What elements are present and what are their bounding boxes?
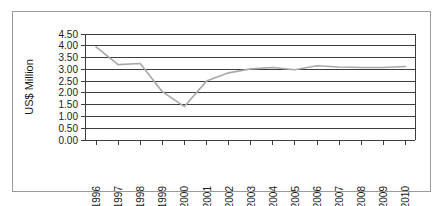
x-tick-label: 2000 [179, 186, 190, 206]
y-tick-label: 1.50 [59, 99, 79, 110]
y-tick-label: 3.00 [59, 64, 79, 75]
y-tick-label: 2.50 [59, 76, 79, 87]
y-tick-label: 0.50 [59, 123, 79, 134]
y-tick-label: 0.00 [59, 135, 79, 146]
y-tick-marks [81, 34, 85, 140]
y-tick-label: 4.50 [59, 29, 79, 40]
y-axis-title: US$ Million [23, 59, 35, 115]
gridlines-y [85, 34, 415, 140]
line-chart: 4.50 4.00 3.50 3.00 2.50 2.00 1.50 1.00 … [0, 0, 444, 206]
data-series-line [96, 47, 405, 107]
chart-figure: 4.50 4.00 3.50 3.00 2.50 2.00 1.50 1.00 … [0, 0, 444, 206]
x-tick-label: 1996 [91, 186, 102, 206]
plot-area-border [85, 34, 415, 140]
x-tick-label: 2002 [224, 186, 235, 206]
x-tick-label: 1999 [157, 186, 168, 206]
y-tick-label: 1.00 [59, 111, 79, 122]
x-tick-label: 2003 [246, 186, 257, 206]
x-tick-label: 2008 [356, 186, 367, 206]
x-tick-label: 1998 [135, 186, 146, 206]
y-tick-label: 3.50 [59, 52, 79, 63]
x-tick-label: 2007 [334, 186, 345, 206]
y-tick-label: 4.00 [59, 40, 79, 51]
x-tick-label: 2010 [400, 186, 411, 206]
x-tick-label: 2005 [290, 186, 301, 206]
x-tick-label: 2009 [378, 186, 389, 206]
x-tick-label: 2006 [312, 186, 323, 206]
x-tick-marks [96, 140, 405, 145]
x-tick-label: 1997 [113, 186, 124, 206]
x-tick-label: 2004 [268, 186, 279, 206]
x-tick-label: 2001 [202, 186, 213, 206]
y-tick-labels: 4.50 4.00 3.50 3.00 2.50 2.00 1.50 1.00 … [59, 29, 79, 146]
x-tick-labels: 1996 1997 1998 1999 2000 2001 2002 2003 … [91, 186, 411, 206]
y-tick-label: 2.00 [59, 87, 79, 98]
